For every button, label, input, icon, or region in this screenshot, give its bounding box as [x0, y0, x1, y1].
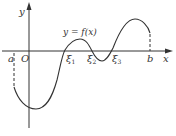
root-label-3: ξ3: [112, 53, 122, 65]
interval-left-label: a: [8, 53, 14, 64]
root-subscript: 2: [93, 58, 97, 65]
root-label-2: ξ2: [87, 53, 97, 65]
origin-label: O: [21, 53, 29, 64]
x-axis-label: x: [163, 53, 169, 64]
y-axis: [27, 2, 32, 128]
y-axis-arrow-icon: [27, 2, 32, 10]
function-graph-figure: y x O a b y = f(x) ξ1 ξ2 ξ3: [0, 0, 176, 136]
root-subscript: 3: [118, 58, 122, 65]
interval-right-label: b: [147, 53, 153, 64]
y-axis-label: y: [18, 6, 25, 17]
root-label-1: ξ1: [66, 53, 75, 65]
function-label: y = f(x): [62, 27, 97, 37]
root-subscript: 1: [72, 58, 76, 65]
